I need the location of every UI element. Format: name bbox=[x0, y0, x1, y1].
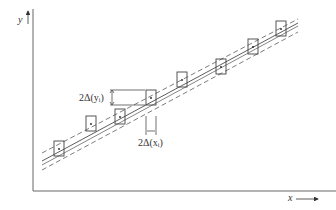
x-error-dimension bbox=[146, 116, 156, 135]
fit-line-dashed-upper bbox=[42, 19, 298, 153]
y-error-label: 2Δ(yᵢ) bbox=[79, 92, 104, 103]
x-axis-label: x bbox=[288, 192, 292, 203]
y-error-dimension bbox=[110, 90, 145, 105]
y-axis-label: y bbox=[18, 14, 22, 25]
x-error-label: 2Δ(xᵢ) bbox=[138, 137, 163, 148]
diagram-canvas bbox=[0, 0, 336, 210]
